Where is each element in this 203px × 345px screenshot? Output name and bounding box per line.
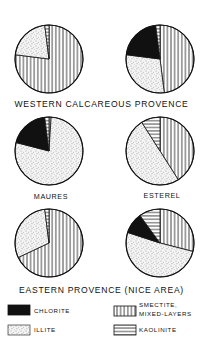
legend-label-chlorite: CHLORITE bbox=[34, 306, 70, 315]
group-title-eastern: EASTERN PROVENCE (NICE AREA) bbox=[0, 285, 203, 295]
pie-0-1 bbox=[126, 25, 194, 93]
legend-label-smectite-line1: SMECTITE, bbox=[139, 300, 177, 309]
pie-label-esterel: ESTEREL bbox=[112, 191, 203, 200]
pie-1-0 bbox=[15, 117, 83, 185]
slice-illite bbox=[15, 25, 49, 59]
pie-2-0 bbox=[15, 209, 83, 277]
legend-swatches bbox=[8, 305, 136, 335]
pie-label-maures: MAURES bbox=[1, 192, 101, 201]
legend-swatch-chlorite bbox=[8, 305, 30, 315]
legend-label-smectite-line2: MIXED-LAYERS bbox=[139, 309, 192, 318]
pies-layer bbox=[15, 25, 194, 277]
legend-label-illite: ILLITE bbox=[34, 325, 56, 334]
pie-0-0 bbox=[15, 25, 83, 93]
legend-label-kaolinite: KAOLINITE bbox=[139, 325, 177, 334]
slice-chlorite bbox=[126, 25, 160, 59]
legend-swatch-illite bbox=[8, 325, 30, 335]
legend-swatch-smectite bbox=[114, 306, 136, 316]
pie-1-1 bbox=[126, 117, 194, 185]
legend-swatch-kaolinite bbox=[114, 325, 136, 335]
group-title-western: WESTERN CALCAREOUS PROVENCE bbox=[0, 99, 203, 109]
pie-2-1 bbox=[126, 209, 194, 277]
slice-illite bbox=[126, 55, 164, 93]
slice-smectite bbox=[160, 25, 194, 93]
